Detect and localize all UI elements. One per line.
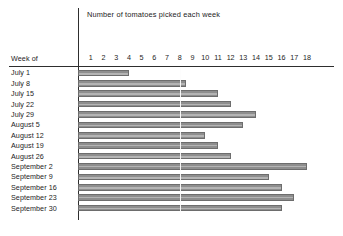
bar (78, 142, 218, 149)
category-label: August 5 (11, 120, 40, 129)
bar (78, 174, 269, 181)
category-label: September 9 (11, 172, 53, 181)
bar (78, 194, 294, 201)
chart-row: July 22 (0, 99, 343, 109)
chart-row: September 2 (0, 162, 343, 172)
chart-row: September 16 (0, 182, 343, 192)
bar (78, 122, 243, 129)
chart-row: August 5 (0, 120, 343, 130)
value-tick-4: 4 (127, 53, 131, 62)
bar-chart: Number of tomatoes picked each week Week… (0, 0, 343, 236)
value-tick-8: 8 (178, 53, 182, 62)
value-tick-2: 2 (101, 53, 105, 62)
category-label: September 30 (11, 204, 57, 213)
category-label: July 15 (11, 89, 34, 98)
value-tick-9: 9 (190, 53, 194, 62)
bar (78, 132, 205, 139)
value-tick-11: 11 (214, 53, 221, 62)
value-tick-17: 17 (290, 53, 298, 62)
bar (78, 101, 231, 108)
bar (78, 153, 231, 160)
category-label: July 22 (11, 100, 34, 109)
value-tick-14: 14 (252, 53, 260, 62)
chart-row: July 29 (0, 110, 343, 120)
mid-gridline (180, 68, 181, 214)
chart-row: July 15 (0, 89, 343, 99)
category-label: July 1 (11, 68, 30, 77)
bar (78, 70, 129, 77)
header-rule (9, 66, 334, 67)
value-axis-ticks: 123456789101112131415161718 (0, 53, 343, 64)
chart-row: July 1 (0, 68, 343, 78)
value-tick-13: 13 (239, 53, 247, 62)
category-label: September 16 (11, 183, 57, 192)
bar (78, 163, 307, 170)
value-tick-10: 10 (201, 53, 209, 62)
value-tick-3: 3 (114, 53, 118, 62)
category-label: September 23 (11, 193, 57, 202)
chart-row: September 9 (0, 172, 343, 182)
bar (78, 80, 186, 87)
value-tick-6: 6 (152, 53, 156, 62)
category-label: September 2 (11, 162, 53, 171)
value-tick-18: 18 (303, 53, 311, 62)
chart-row: August 12 (0, 130, 343, 140)
category-label: August 12 (11, 131, 44, 140)
chart-row: August 26 (0, 151, 343, 161)
category-label: August 19 (11, 141, 44, 150)
bar (78, 90, 218, 97)
chart-row: July 8 (0, 78, 343, 88)
value-tick-5: 5 (140, 53, 144, 62)
category-label: August 26 (11, 152, 44, 161)
chart-row: September 23 (0, 193, 343, 203)
chart-row: August 19 (0, 141, 343, 151)
chart-title: Number of tomatoes picked each week (87, 10, 220, 19)
value-tick-7: 7 (165, 53, 169, 62)
value-tick-12: 12 (227, 53, 235, 62)
bar (78, 111, 256, 118)
category-label: July 29 (11, 110, 34, 119)
value-tick-1: 1 (89, 53, 93, 62)
value-tick-16: 16 (278, 53, 286, 62)
value-tick-15: 15 (265, 53, 273, 62)
category-label: July 8 (11, 79, 30, 88)
chart-row: September 30 (0, 203, 343, 213)
plot-area: July 1July 8July 15July 22July 29August … (0, 68, 343, 218)
